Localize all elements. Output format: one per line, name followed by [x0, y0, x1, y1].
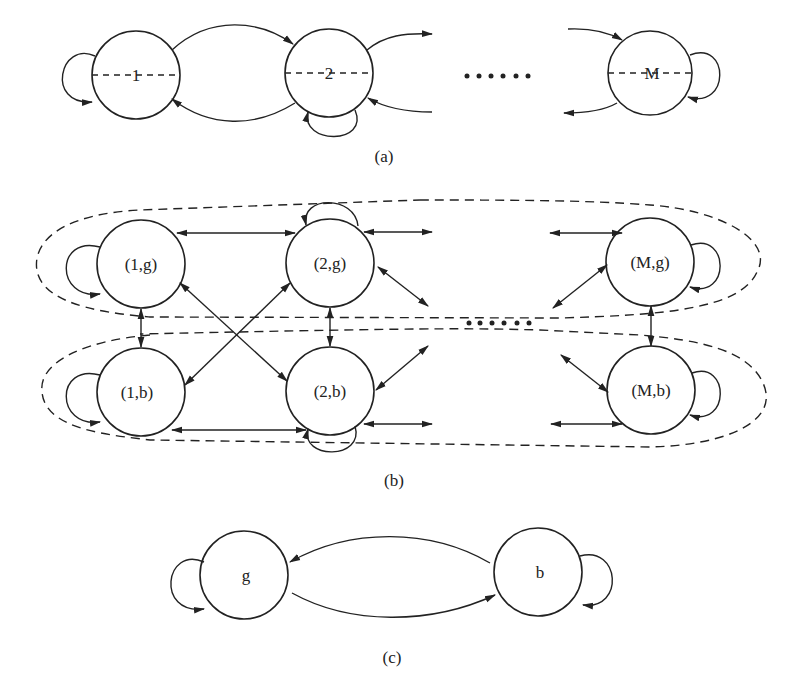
node-2b: (2,b): [286, 347, 374, 435]
edge-g-to-b: [292, 593, 495, 617]
ellipsis-dots: [465, 74, 531, 79]
node-2g: (2,g): [286, 219, 374, 307]
self-loop-1: [62, 53, 95, 102]
node-b: b: [494, 528, 582, 616]
edge-prev-Mb-diag: [561, 355, 608, 392]
node-1g-label: (1,g): [125, 255, 158, 274]
node-g-label: g: [242, 566, 251, 585]
node-1b: (1,b): [97, 348, 185, 436]
node-1g: (1,g): [97, 220, 185, 308]
caption-c: (c): [383, 648, 402, 667]
node-2: 2: [285, 29, 373, 117]
panel-b: (1,g) (2,g) (M,g) (1,b) (2,b) (M,b): [36, 200, 766, 490]
edge-2g-next-diag: [378, 267, 428, 306]
panel-a: 1 2: [62, 25, 719, 166]
node-M-label: M: [644, 64, 659, 83]
edge-next-to-2: [368, 98, 432, 112]
node-Mb-label: (M,b): [631, 381, 670, 400]
node-2g-label: (2,g): [314, 254, 347, 273]
edge-M-to-prev: [564, 103, 617, 113]
self-loop-b: [580, 555, 612, 606]
self-loop-1g: [66, 246, 100, 295]
node-Mb: (M,b): [607, 346, 695, 434]
node-1-label: 1: [132, 66, 141, 85]
node-Mg-label: (M,g): [630, 253, 669, 272]
self-loop-1b: [66, 374, 100, 423]
edge-2-to-1: [172, 99, 295, 121]
markov-chain-figure: 1 2: [0, 0, 800, 700]
ellipsis-dots-b: [467, 321, 532, 326]
node-M: M: [608, 31, 692, 115]
node-Mg: (M,g): [606, 218, 694, 306]
self-loop-g: [171, 559, 204, 609]
edge-1-to-2: [172, 25, 293, 50]
caption-a: (a): [375, 147, 394, 166]
node-b-label: b: [536, 563, 545, 582]
edge-prev-to-M: [568, 29, 622, 40]
node-1b-label: (1,b): [121, 383, 154, 402]
self-loop-2b: [307, 426, 356, 452]
edge-prev-Mg-diag: [553, 265, 607, 308]
edge-2b-next-diag: [376, 346, 428, 390]
self-loop-M: [688, 53, 720, 99]
panel-c: g b (c): [171, 528, 612, 667]
caption-b: (b): [384, 471, 404, 490]
node-2b-label: (2,b): [314, 382, 347, 401]
node-1: 1: [92, 31, 180, 119]
node-g: g: [200, 531, 288, 619]
edge-2-to-next: [367, 34, 432, 50]
edge-b-to-g: [290, 537, 490, 563]
node-2-label: 2: [325, 64, 334, 83]
